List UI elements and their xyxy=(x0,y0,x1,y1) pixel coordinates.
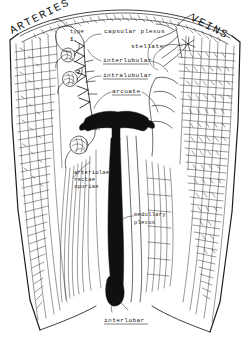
label-interlobar: interlobar xyxy=(104,317,145,324)
renal-circulation-diagram: ARTERIES VEINS type 1. capsular plexus s… xyxy=(0,0,250,349)
label-intralobular: intralobular xyxy=(103,72,152,79)
label-arteriolae-line2: rectae xyxy=(74,177,95,183)
label-arteriolae-line3: spuriae xyxy=(74,184,99,190)
label-capsular-plexus: capsular plexus xyxy=(104,28,165,35)
label-type-1: type xyxy=(70,29,84,35)
label-medullary-line1: medullary xyxy=(134,212,166,218)
label-stellate: stellate xyxy=(131,43,164,50)
label-arcuate: arcuate xyxy=(112,88,140,95)
label-interlobular: interlobular xyxy=(103,57,152,64)
marker-1: 1. xyxy=(70,36,77,43)
marker-3: 3. xyxy=(94,125,101,132)
label-arteriolae-line1: arteriolae xyxy=(74,170,109,176)
label-medullary-line2: plexus xyxy=(134,220,155,226)
marker-2: 2. xyxy=(77,69,84,76)
